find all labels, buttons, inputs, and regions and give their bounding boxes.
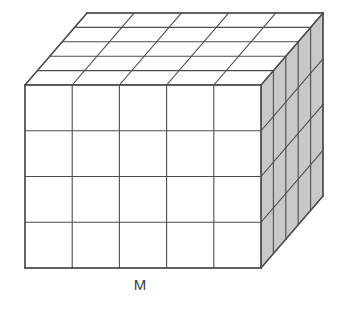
- axis-label-m: M: [134, 276, 147, 293]
- figure-root: M: [0, 0, 339, 309]
- front-face: [25, 85, 261, 268]
- cuboid-diagram: M: [0, 0, 339, 309]
